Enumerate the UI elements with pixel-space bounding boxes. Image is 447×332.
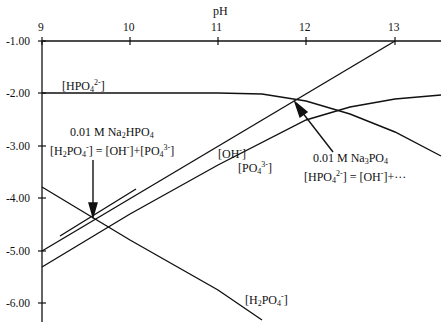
reference-line [60, 189, 136, 236]
series-h2po4-line [42, 187, 262, 320]
arrowhead-down-icon [89, 203, 97, 217]
annotation-na2hpo4-equation: [H2PO4-] = [OH-]+[PO43-] [50, 141, 174, 162]
x-tick-label: 9 [38, 20, 44, 34]
y-tick-label: -4.00 [6, 191, 30, 205]
y-tick-label: -2.00 [6, 86, 30, 100]
x-tick-label: 10 [123, 20, 135, 34]
series-label-h2po4: [H2PO4-] [245, 290, 288, 311]
x-tick-label: 12 [299, 20, 311, 34]
annotation-na3po4-equation: [HPO42-] = [OH-]+··· [304, 167, 406, 188]
y-tick-label: -1.00 [6, 34, 30, 48]
y-tick-label: -6.00 [6, 296, 30, 310]
x-axis-label: pH [213, 4, 228, 18]
series-label-hpo4: [HPO42-] [62, 76, 105, 97]
y-tick-label: -5.00 [6, 244, 30, 258]
y-tick-label: -3.00 [6, 139, 30, 153]
series-label-po4: [PO43-] [238, 158, 272, 179]
arrowhead-up-left-icon [295, 102, 307, 117]
annotation-arrow-na3po4 [302, 112, 333, 152]
x-tick-label: 13 [388, 20, 400, 34]
x-tick-label: 11 [211, 20, 222, 34]
